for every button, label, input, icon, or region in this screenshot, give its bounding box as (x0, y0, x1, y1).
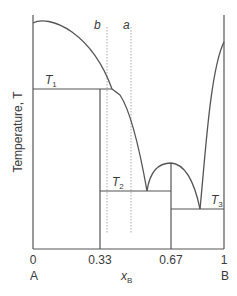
isopleth-a-label: a (123, 18, 130, 32)
t2-label: T2 (112, 175, 124, 191)
component-A-label: A (30, 269, 38, 283)
liquidus-right (200, 42, 224, 209)
x-tick-0.33: 0.33 (88, 253, 112, 267)
phase-diagram: Temperature, T T1 T2 T3 b a 0 0.33 0.67 … (0, 0, 237, 296)
isopleth-b-label: b (94, 18, 101, 32)
x-tick-0.67: 0.67 (159, 253, 183, 267)
t1-label: T1 (45, 73, 57, 89)
x-tick-0: 0 (30, 253, 37, 267)
x-axis-label: xB (120, 269, 132, 285)
component-B-label: B (221, 269, 229, 283)
t3-label: T3 (211, 193, 223, 209)
compound-dome (147, 163, 200, 209)
x-tick-1: 1 (221, 253, 228, 267)
y-axis-label: Temperature, T (11, 91, 25, 173)
